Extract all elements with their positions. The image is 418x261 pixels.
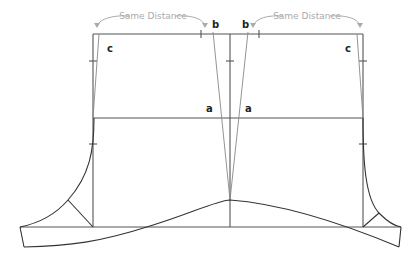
- right-gusset-line: [363, 213, 379, 227]
- hem-left-edge: [20, 227, 24, 247]
- dart-line-right: [230, 32, 248, 200]
- side-line-left: [93, 34, 99, 118]
- label-b-right: b: [242, 19, 249, 30]
- label-c-right: c: [345, 43, 351, 54]
- right-side-curve: [363, 118, 401, 227]
- left-gusset-line: [68, 200, 93, 227]
- pattern-diagram: Same Distance Same Distance b b c c a a: [0, 0, 418, 261]
- side-line-right: [357, 34, 363, 118]
- same-distance-label-left: Same Distance: [119, 11, 187, 21]
- left-side-curve: [20, 118, 94, 227]
- arrowhead-icon: [94, 23, 100, 28]
- hem-curve: [24, 200, 399, 247]
- arrowhead-icon: [250, 23, 256, 28]
- hem-right-edge: [399, 227, 401, 247]
- arrowhead-icon: [202, 23, 208, 28]
- same-distance-label-right: Same Distance: [273, 11, 341, 21]
- label-c-left: c: [107, 43, 113, 54]
- label-b-left: b: [212, 19, 219, 30]
- label-a-right: a: [245, 103, 252, 114]
- dart-line-left: [213, 32, 230, 200]
- arrowhead-icon: [357, 23, 363, 28]
- label-a-left: a: [206, 103, 213, 114]
